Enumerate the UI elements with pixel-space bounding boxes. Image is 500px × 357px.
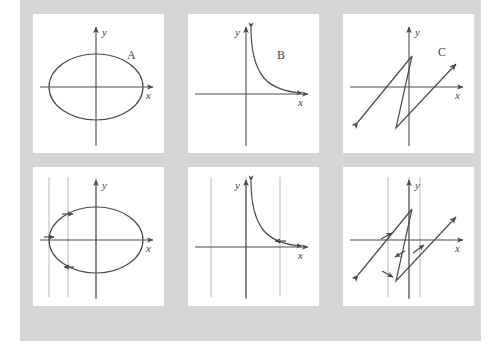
panel-a: x y A <box>33 14 164 153</box>
curve-hyperbola <box>251 181 302 246</box>
y-axis-label: y <box>234 26 240 38</box>
y-axis-label: y <box>414 179 420 191</box>
y-axis-label: y <box>414 26 420 38</box>
panel-b-test: x y <box>188 167 319 306</box>
panel-c: x y C <box>343 14 474 153</box>
panel-a-test: x y <box>33 167 164 306</box>
intersection-marker <box>413 245 424 253</box>
panel-label: C <box>438 45 446 59</box>
y-axis-label: y <box>101 179 107 191</box>
x-axis-label: x <box>297 96 303 108</box>
y-axis-label: y <box>234 179 240 191</box>
x-axis-label: x <box>297 249 303 261</box>
curve-zigzag <box>358 209 456 281</box>
panel-grid: x y A x y B x y C <box>20 0 481 341</box>
x-axis-label: x <box>145 242 151 254</box>
x-axis-label: x <box>145 89 151 101</box>
vertical-test-lines <box>388 177 420 297</box>
vertical-test-lines <box>49 177 96 297</box>
curve-zigzag <box>358 56 456 128</box>
figure-root: x y A x y B x y C <box>0 0 500 357</box>
intersection-marker <box>395 251 405 257</box>
panel-label: A <box>127 48 136 62</box>
panel-b: x y B <box>188 14 319 153</box>
y-axis-label: y <box>101 26 107 38</box>
panel-label: B <box>277 48 285 62</box>
x-axis-label: x <box>454 89 460 101</box>
panel-c-test: x y <box>343 167 474 306</box>
x-axis-label: x <box>454 242 460 254</box>
